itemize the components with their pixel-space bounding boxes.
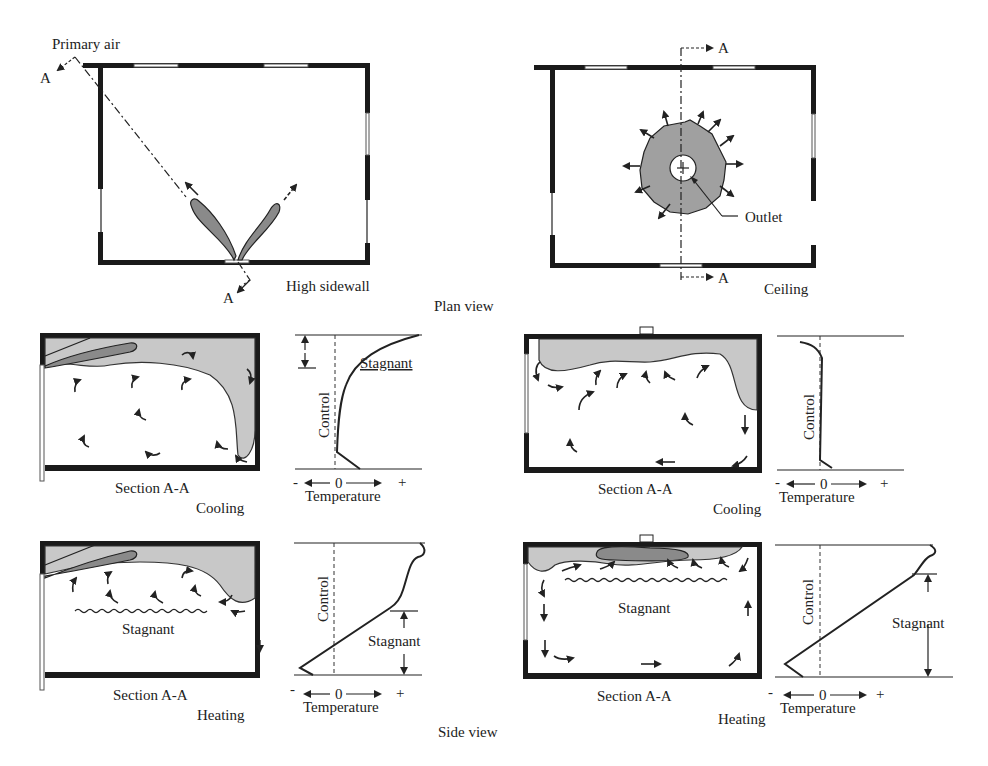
section-sidewall-heating: Stagnant Section A-A Heating — [40, 541, 260, 723]
side-view-caption: Side view — [438, 724, 498, 740]
mode-label-cooling: Cooling — [196, 500, 245, 516]
temperature-profile-sidewall-heating: Stagnant Control - 0 + Temperature — [290, 543, 425, 715]
axis-label: Temperature — [780, 700, 856, 716]
stagnant-label: Stagnant — [360, 355, 413, 371]
temperature-profile-ceiling-cooling: Control - 0 + Temperature — [775, 336, 904, 505]
axis-plus: + — [398, 474, 406, 490]
axis-plus: + — [876, 686, 884, 702]
plan-ceiling: A A Outlet Ceiling — [534, 40, 816, 297]
section-ceiling-heating: Stagnant Section A-A Heating — [523, 535, 766, 727]
section-mark-a-bottom: A — [223, 290, 234, 306]
mode-label-cooling: Cooling — [713, 501, 762, 517]
primary-air-label: Primary air — [52, 36, 120, 52]
room-stagnant-label: Stagnant — [618, 600, 671, 616]
axis-minus: - — [768, 684, 773, 700]
mode-label-heating: Heating — [197, 707, 245, 723]
section-label: Section A-A — [597, 688, 672, 704]
axis-plus: + — [396, 685, 404, 701]
room-stagnant-label: Stagnant — [122, 621, 175, 637]
axis-label: Temperature — [305, 488, 381, 504]
plan-view-caption: Plan view — [434, 298, 494, 314]
control-label: Control — [315, 576, 331, 622]
section-mark-a-bottom-ceiling: A — [718, 270, 729, 286]
control-label: Control — [800, 579, 816, 625]
temperature-profile-ceiling-heating: Stagnant Control - 0 + Temperature — [768, 545, 953, 716]
section-sidewall-cooling: Section A-A Cooling — [40, 333, 260, 516]
stagnant-label: Stagnant — [368, 633, 421, 649]
section-label: Section A-A — [113, 687, 188, 703]
axis-minus: - — [775, 474, 780, 490]
section-ceiling-cooling: Section A-A Cooling — [524, 327, 762, 517]
section-label: Section A-A — [598, 481, 673, 497]
axis-minus: - — [290, 681, 295, 697]
stagnant-label: Stagnant — [892, 615, 945, 631]
section-mark-a-top: A — [40, 70, 51, 86]
plan-high-sidewall: Primary air A A High sidewall — [40, 36, 370, 306]
control-label: Control — [316, 392, 332, 438]
ceiling-label: Ceiling — [764, 281, 809, 297]
axis-label: Temperature — [779, 489, 855, 505]
axis-plus: + — [880, 475, 888, 491]
section-mark-a-top-ceiling: A — [718, 40, 729, 56]
axis-minus: - — [293, 474, 298, 490]
high-sidewall-label: High sidewall — [286, 278, 370, 294]
section-label: Section A-A — [115, 480, 190, 496]
control-label: Control — [801, 394, 817, 440]
temperature-profile-sidewall-cooling: Stagnant Control - 0 + Temperature — [293, 335, 422, 504]
mode-label-heating: Heating — [718, 711, 766, 727]
axis-label: Temperature — [303, 699, 379, 715]
air-distribution-diagram: Primary air A A High sidewall — [0, 0, 988, 766]
outlet-label: Outlet — [745, 209, 783, 225]
